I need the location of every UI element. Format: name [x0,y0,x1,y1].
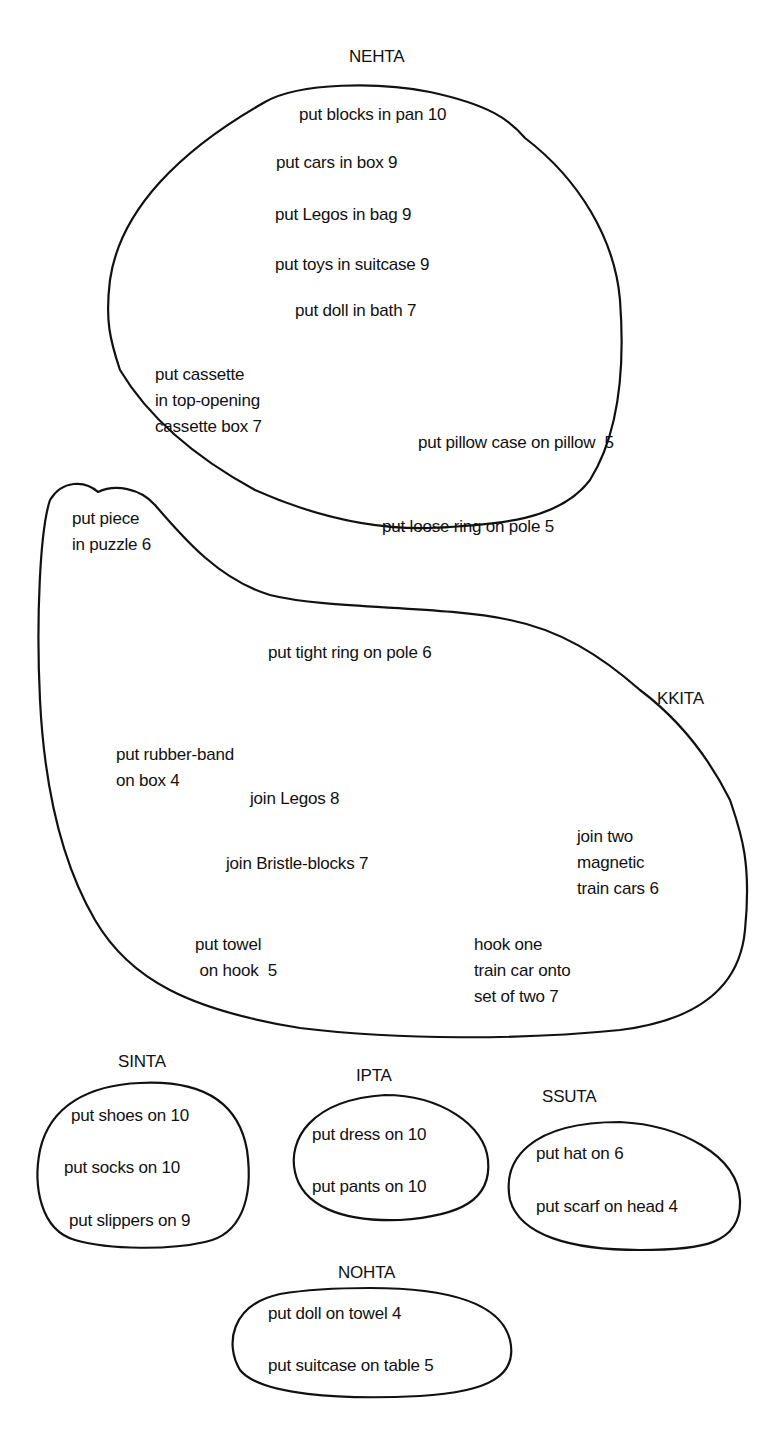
task-item: join Legos 8 [250,786,339,812]
group-title-ipta: IPTA [356,1063,392,1089]
task-item: put doll in bath 7 [295,298,416,324]
task-item: put slippers on 9 [69,1208,190,1234]
task-item: put tight ring on pole 6 [268,640,431,666]
task-item: put hat on 6 [536,1141,623,1167]
task-item: put toys in suitcase 9 [275,252,429,278]
task-item: put shoes on 10 [71,1103,189,1129]
task-item: put socks on 10 [64,1155,180,1181]
task-item: put Legos in bag 9 [275,202,411,228]
task-item: put rubber-band on box 4 [116,742,234,794]
ipta-outline [294,1095,489,1220]
task-item: join two magnetic train cars 6 [577,824,659,902]
group-title-nehta: NEHTA [349,44,404,70]
task-item: put cars in box 9 [276,150,397,176]
group-title-sinta: SINTA [118,1049,166,1075]
task-item: put pants on 10 [312,1174,426,1200]
task-item: put scarf on head 4 [536,1194,678,1220]
task-item: put towel on hook 5 [195,932,277,984]
task-item: put suitcase on table 5 [268,1353,434,1379]
group-title-kkita: KKITA [657,686,704,712]
task-item: put dress on 10 [312,1122,426,1148]
task-item: put blocks in pan 10 [299,102,446,128]
task-item: put pillow case on pillow 5 [418,430,614,456]
task-item: put piece in puzzle 6 [72,506,151,558]
diagram-canvas: NEHTA put blocks in pan 10 put cars in b… [0,0,769,1432]
task-item: join Bristle-blocks 7 [226,851,368,877]
task-item: hook one train car onto set of two 7 [474,932,570,1010]
task-item: put loose ring on pole 5 [382,514,554,540]
group-title-ssuta: SSUTA [542,1084,596,1110]
task-item: put doll on towel 4 [268,1301,401,1327]
group-title-nohta: NOHTA [338,1260,395,1286]
task-item: put cassette in top-opening cassette box… [155,362,262,440]
